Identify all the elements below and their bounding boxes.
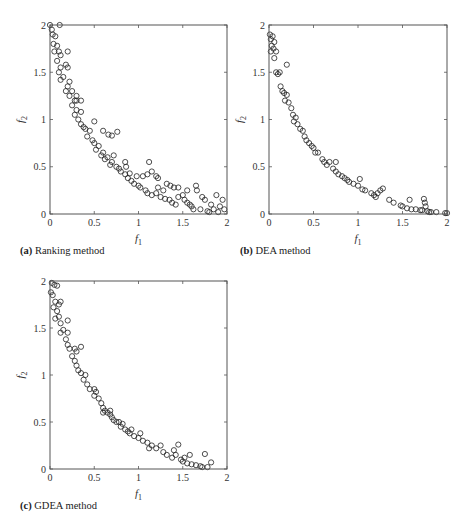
data-point [134,174,139,179]
data-point [222,207,227,212]
data-point [63,337,68,342]
x-axis-label: f1 [354,232,361,247]
x-tick-label: 2 [225,217,230,228]
data-point [53,299,58,304]
data-point [154,191,159,196]
caption-c: (c) GDEA method [20,500,97,511]
data-point [67,93,72,98]
data-point [76,117,81,122]
data-point [198,207,203,212]
data-point [209,460,214,465]
x-tick-label: 0.5 [88,472,101,483]
data-point [85,134,90,139]
data-point [70,89,75,94]
x-tick-label: 1.5 [396,217,409,228]
scatter-plot-b: 00.511.5200.511.52f1f2 [232,0,465,262]
y-axis-label: f2 [233,116,248,123]
data-point [155,185,160,190]
data-point [109,133,114,138]
data-point [176,194,181,199]
data-point [56,70,61,75]
data-point [220,197,225,202]
y-tick-label: 1.5 [253,67,266,78]
data-point [81,377,86,382]
data-point [70,103,75,108]
x-tick-label: 0 [48,217,53,228]
x-axis-label: f1 [135,487,142,502]
y-tick-label: 0.5 [253,161,266,172]
data-point [70,354,75,359]
data-point [173,452,178,457]
caption-a-text: Ranking method [35,245,105,256]
data-point [422,200,427,205]
caption-c-label: (c) [20,500,32,511]
data-point [194,188,199,193]
data-point [170,455,175,460]
scatter-points [47,22,227,214]
panel-c-gdea: 00.511.5200.511.52f1f2 (c) GDEA method [0,262,232,524]
data-point [63,89,68,94]
x-tick-label: 1 [136,217,141,228]
caption-a-label: (a) [20,245,32,256]
data-point [124,164,129,169]
data-point [147,159,152,164]
data-point [187,452,192,457]
data-point [65,49,70,54]
data-point [176,442,181,447]
y-tick-label: 1 [41,370,46,381]
data-point [111,153,116,158]
data-point [106,132,111,137]
data-point [93,147,98,152]
scatter-plot-a: 00.511.5200.511.52f1f2 [0,0,232,262]
data-point [65,318,70,323]
data-point [272,39,277,44]
x-tick-label: 1 [356,217,361,228]
x-tick-label: 0.5 [307,217,320,228]
data-point [55,58,60,63]
data-point [295,122,300,127]
data-point [158,443,163,448]
data-point [138,431,143,436]
data-point [161,188,166,193]
data-point [72,112,77,117]
data-point [284,62,289,67]
scatter-plot-c: 00.511.5200.511.52f1f2 [0,262,232,524]
data-point [391,200,396,205]
data-point [87,128,92,133]
scatter-points [267,32,449,216]
y-tick-label: 0 [260,209,265,220]
data-point [58,321,63,326]
y-tick-label: 1 [41,114,46,125]
data-point [214,193,219,198]
caption-c-text: GDEA method [34,500,97,511]
x-tick-label: 1.5 [177,217,190,228]
data-point [115,129,120,134]
y-tick-label: 2 [41,20,46,31]
caption-b-label: (b) [240,245,253,256]
data-point [193,183,198,188]
y-tick-label: 2 [41,276,46,287]
y-tick-label: 1 [260,114,265,125]
scatter-points [48,280,213,469]
data-point [101,128,106,133]
data-point [357,176,362,181]
x-tick-label: 1 [136,472,141,483]
data-point [185,188,190,193]
y-tick-label: 0 [41,209,46,220]
y-tick-label: 2 [260,20,265,31]
x-tick-label: 2 [225,472,230,483]
data-point [78,109,83,114]
data-point [149,169,154,174]
data-point [123,159,128,164]
data-point [333,159,338,164]
data-point [96,143,101,148]
y-tick-label: 0.5 [34,417,47,428]
data-point [272,56,277,61]
data-point [421,196,426,201]
y-axis-label: f2 [14,371,29,378]
panel-b-dea: 00.511.5200.511.52f1f2 (b) DEA method [232,0,465,262]
data-point [355,183,360,188]
data-point [164,452,169,457]
x-tick-label: 0 [267,217,272,228]
data-point [55,309,60,314]
